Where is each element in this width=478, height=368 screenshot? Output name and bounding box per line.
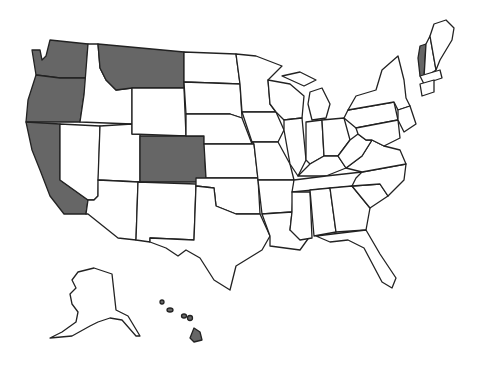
- state-north-dakota[interactable]: [184, 52, 240, 84]
- state-colorado[interactable]: [140, 136, 206, 182]
- state-oregon[interactable]: [26, 75, 88, 122]
- state-florida[interactable]: [316, 230, 396, 288]
- state-hawaii[interactable]: [160, 300, 202, 342]
- state-mississippi[interactable]: [290, 192, 312, 240]
- state-connecticut[interactable]: [420, 80, 434, 96]
- state-south-dakota[interactable]: [184, 82, 242, 118]
- state-new-mexico[interactable]: [136, 182, 196, 242]
- state-new-york[interactable]: [348, 56, 410, 110]
- state-kansas[interactable]: [204, 144, 258, 178]
- state-washington[interactable]: [32, 40, 88, 78]
- state-arkansas[interactable]: [258, 180, 294, 214]
- state-wyoming[interactable]: [132, 88, 186, 136]
- state-montana[interactable]: [98, 44, 184, 90]
- us-map: [0, 0, 478, 368]
- state-alaska: [50, 268, 140, 338]
- state-new-jersey[interactable]: [398, 106, 416, 132]
